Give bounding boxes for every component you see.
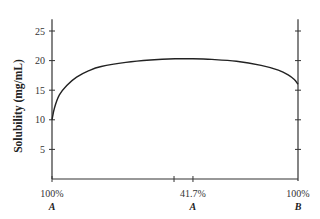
x-tick-label: 100% bbox=[286, 188, 309, 199]
solubility-curve bbox=[52, 59, 298, 120]
axes bbox=[49, 19, 301, 182]
y-tick-label: 25 bbox=[35, 26, 45, 37]
labels-group: 510152025100%A41.7%A100%B bbox=[35, 26, 310, 213]
x-tick-sublabel: A bbox=[48, 201, 56, 212]
x-tick-sublabel: B bbox=[294, 201, 302, 212]
x-tick-sublabel: A bbox=[189, 201, 197, 212]
y-tick-label: 5 bbox=[40, 144, 45, 155]
y-axis-title: Solubility (mg/mL) bbox=[12, 59, 25, 153]
y-tick-label: 20 bbox=[35, 55, 45, 66]
x-tick-label: 41.7% bbox=[180, 188, 206, 199]
y-tick-label: 10 bbox=[35, 114, 45, 125]
solubility-chart: 510152025100%A41.7%A100%B Solubility (mg… bbox=[0, 0, 320, 219]
x-tick-label: 100% bbox=[40, 188, 63, 199]
series-group bbox=[52, 59, 298, 120]
y-tick-label: 15 bbox=[35, 85, 45, 96]
